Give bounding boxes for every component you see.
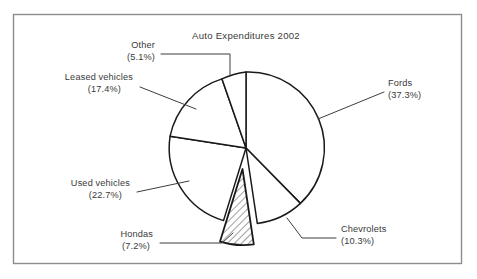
slice-label-chevrolets-percent: (10.3%) — [341, 236, 374, 246]
chart-title: Auto Expenditures 2002 — [192, 30, 300, 41]
slice-label-hondas-name: Hondas — [120, 229, 153, 239]
slice-label-used-vehicles-name: Used vehicles — [71, 178, 130, 188]
pie-chart-figure: Auto Expenditures 2002 Fords (37.3 — [0, 0, 477, 279]
slice-label-leased-vehicles-name: Leased vehicles — [65, 72, 133, 82]
slice-label-fords-percent: (37.3%) — [388, 90, 421, 100]
slice-label-leased-vehicles-percent: (17.4%) — [88, 84, 121, 94]
slice-label-chevrolets-name: Chevrolets — [341, 224, 387, 234]
slice-label-used-vehicles-percent: (22.7%) — [89, 190, 122, 200]
slice-label-hondas-percent: (7.2%) — [122, 241, 150, 251]
slice-label-other-percent: (5.1%) — [127, 52, 155, 62]
slice-label-other-name: Other — [131, 40, 155, 50]
slice-label-fords-name: Fords — [388, 78, 412, 88]
chart-canvas: Auto Expenditures 2002 Fords (37.3 — [0, 0, 477, 279]
